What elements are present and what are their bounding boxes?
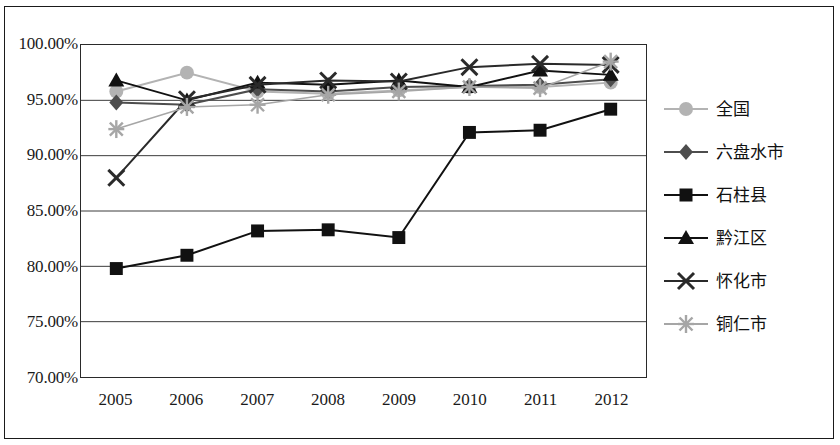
data-point-marker: [108, 120, 124, 138]
x-axis-tick-label: 2011: [524, 391, 557, 408]
y-axis-tick-label: 95.00%: [0, 91, 78, 108]
y-axis-tick-label: 80.00%: [0, 258, 78, 275]
x-axis-tick-labels: 20052006200720082009201020112012: [80, 391, 647, 421]
data-point-marker: [108, 72, 124, 86]
legend-marker-triangle-icon: [663, 228, 709, 248]
legend-marker-circle-icon: [663, 99, 709, 119]
x-axis-tick-label: 2005: [98, 391, 132, 408]
y-axis-tick-label: 100.00%: [0, 35, 78, 52]
data-point-marker: [250, 96, 266, 114]
data-point-marker: [461, 78, 477, 96]
x-axis-tick-label: 2009: [382, 391, 416, 408]
data-point-marker: [109, 95, 123, 111]
x-axis-tick-label: 2012: [595, 391, 629, 408]
legend-marker-x-icon: [663, 271, 709, 291]
data-point-marker: [604, 103, 617, 116]
legend-marker-diamond-icon: [663, 142, 709, 162]
x-axis-tick-label: 2007: [240, 391, 274, 408]
legend-marker-star-icon: [663, 314, 709, 334]
x-axis-tick-label: 2006: [169, 391, 203, 408]
data-point-marker: [679, 144, 693, 160]
x-axis-tick-label: 2008: [311, 391, 345, 408]
data-point-marker: [391, 83, 407, 101]
legend-item[interactable]: 怀化市: [663, 270, 767, 292]
legend-marker-square-icon: [663, 185, 709, 205]
data-point-marker: [678, 315, 694, 333]
data-point-marker: [320, 86, 336, 104]
chart-plot-svg: [81, 45, 646, 377]
data-point-marker: [392, 231, 405, 244]
data-point-marker: [251, 224, 264, 237]
chart-screenshot: 100.00%95.00%90.00%85.00%80.00%75.00%70.…: [0, 0, 840, 445]
data-point-marker: [322, 223, 335, 236]
legend-label: 六盘水市: [716, 144, 784, 161]
legend-item[interactable]: 石柱县: [663, 184, 767, 206]
y-axis-tick-labels: 100.00%95.00%90.00%85.00%80.00%75.00%70.…: [0, 0, 78, 445]
data-point-marker: [463, 126, 476, 139]
legend-label: 全国: [716, 101, 750, 118]
chart-legend: 全国六盘水市石柱县黔江区怀化市铜仁市: [663, 98, 823, 358]
y-axis-tick-label: 75.00%: [0, 313, 78, 330]
y-axis-tick-label: 90.00%: [0, 146, 78, 163]
legend-label: 怀化市: [716, 273, 767, 290]
x-axis-tick-label: 2010: [453, 391, 487, 408]
plot-area: [80, 44, 647, 378]
series-square: [110, 103, 617, 275]
legend-item[interactable]: 黔江区: [663, 227, 767, 249]
legend-item[interactable]: 全国: [663, 98, 750, 120]
data-point-marker: [532, 79, 548, 97]
data-point-marker: [680, 189, 693, 202]
data-point-marker: [179, 98, 195, 116]
data-point-marker: [180, 249, 193, 262]
legend-item[interactable]: 六盘水市: [663, 141, 784, 163]
y-axis-tick-label: 70.00%: [0, 369, 78, 386]
data-point-marker: [110, 262, 123, 275]
legend-label: 铜仁市: [716, 316, 767, 333]
series-line: [116, 64, 610, 178]
data-point-marker: [679, 102, 693, 116]
data-point-marker: [108, 170, 124, 186]
data-point-marker: [603, 53, 619, 71]
data-point-marker: [180, 66, 194, 80]
y-axis-tick-label: 85.00%: [0, 202, 78, 219]
legend-item[interactable]: 铜仁市: [663, 313, 767, 335]
legend-label: 石柱县: [716, 187, 767, 204]
data-point-marker: [534, 124, 547, 137]
legend-label: 黔江区: [716, 230, 767, 247]
